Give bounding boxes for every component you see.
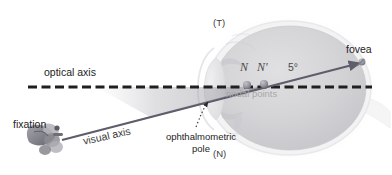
angle-label: 5° [288, 62, 298, 73]
nodal-points-label: nodal points [226, 89, 277, 99]
nodal-point-n-prime-label: N' [257, 61, 268, 73]
nasal-marker-label: (N) [213, 149, 226, 159]
eye-diagram-figure: optical axis fixation visual axis ophtha… [0, 0, 392, 175]
fovea-label: fovea [346, 44, 372, 55]
temporal-marker-label: (T) [213, 18, 225, 28]
optical-axis-label: optical axis [44, 67, 96, 78]
nodal-point-n-label: N [240, 61, 248, 73]
fixation-label: fixation [13, 119, 46, 130]
nodal-point-n-prime-marker [260, 80, 268, 88]
ophthalmometric-pole-label: ophthalmometric pole [159, 131, 243, 155]
